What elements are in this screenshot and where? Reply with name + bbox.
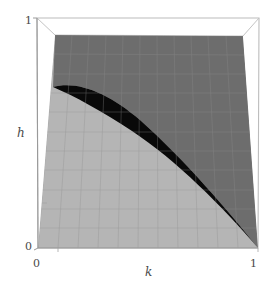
y-axis-label: h [17, 127, 25, 139]
region-plot-figure: 1 0 0 1 h k [0, 0, 274, 294]
y-axis-tick-min: 0 [25, 241, 32, 252]
x-axis-label: k [145, 266, 152, 278]
y-axis-line [37, 18, 38, 248]
y-axis-tick-max: 1 [25, 15, 32, 26]
x-axis-tick-min: 0 [33, 258, 40, 269]
plot-canvas [0, 0, 274, 294]
x-axis-tick-max: 1 [250, 258, 257, 269]
